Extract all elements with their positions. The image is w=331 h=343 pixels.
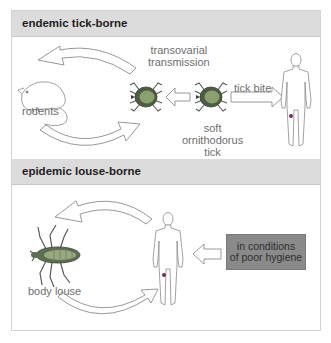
rodents-label: rodents [22,105,59,117]
louse-icon [30,225,80,287]
tick-bite-label: tick bite [234,82,271,94]
label-line: transovarial [148,44,210,56]
label-line: of poor hygiene [230,252,302,263]
tick-icon [130,83,162,111]
curved-arrow-icon [38,46,136,74]
label-line: soft [182,122,243,134]
arrow-left-icon [193,244,221,264]
human-figure-icon [153,213,183,306]
human-figure-icon [281,54,311,147]
body-louse-label: body louse [28,285,81,297]
soft-tick-label: soft ornithodorus tick [182,122,243,158]
tick-icon [195,83,227,111]
label-line: tick [182,146,243,158]
curved-arrow-icon [55,201,152,224]
poor-hygiene-box: in conditions of poor hygiene [226,234,306,270]
arrow-left-icon [166,88,190,106]
transovarial-label: transovarial transmission [148,44,210,68]
label-line: ornithodorus [182,134,243,146]
rodent-icon [18,82,67,126]
label-line: transmission [148,56,210,68]
